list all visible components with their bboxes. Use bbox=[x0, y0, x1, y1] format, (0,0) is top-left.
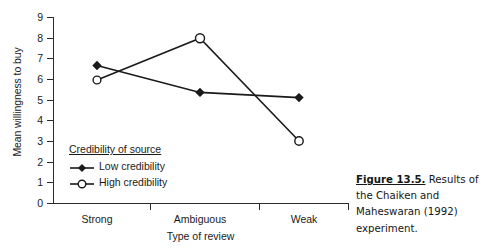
legend: Credibility of source Low credibility bbox=[69, 143, 199, 190]
legend-label-high-credibility: High credibility bbox=[99, 176, 167, 188]
data-point-low-ambiguous bbox=[195, 88, 204, 97]
x-tick-3 bbox=[348, 204, 349, 210]
y-axis-title: Mean willingness to buy bbox=[11, 47, 23, 157]
x-axis-line bbox=[53, 203, 349, 204]
y-tick-4 bbox=[47, 120, 53, 121]
legend-item-high-credibility: High credibility bbox=[69, 174, 199, 190]
y-tick-label-9: 9 bbox=[28, 12, 43, 22]
legend-item-low-credibility: Low credibility bbox=[69, 158, 199, 174]
x-tick-label-ambiguous: Ambiguous bbox=[150, 213, 250, 225]
data-point-high-ambiguous bbox=[196, 34, 205, 43]
legend-label-low-credibility: Low credibility bbox=[99, 160, 165, 172]
data-point-low-strong bbox=[92, 61, 101, 70]
y-tick-label-2: 2 bbox=[28, 157, 43, 167]
x-tick-label-weak: Weak bbox=[254, 213, 354, 225]
y-tick-label-7: 7 bbox=[28, 53, 43, 63]
x-axis-title: Type of review bbox=[53, 230, 348, 242]
series-line-low-credibility bbox=[97, 66, 299, 98]
legend-title: Credibility of source bbox=[69, 143, 199, 155]
y-tick-label-1: 1 bbox=[28, 177, 43, 187]
line-chart: Mean willingness to buy 9 8 7 6 5 4 3 2 … bbox=[0, 0, 348, 251]
y-tick-6 bbox=[47, 79, 53, 80]
y-tick-9 bbox=[47, 17, 53, 18]
y-tick-1 bbox=[47, 182, 53, 183]
y-tick-7 bbox=[47, 58, 53, 59]
y-tick-label-4: 4 bbox=[28, 115, 43, 125]
y-tick-2 bbox=[47, 162, 53, 163]
filled-diamond-icon bbox=[69, 160, 95, 172]
y-tick-label-8: 8 bbox=[28, 33, 43, 43]
open-circle-icon bbox=[69, 176, 95, 188]
figure-caption-label: Figure 13.5. bbox=[356, 174, 425, 185]
figure-caption: Figure 13.5. Results of the Chaiken and … bbox=[356, 172, 487, 237]
data-point-high-strong bbox=[93, 76, 101, 84]
y-tick-5 bbox=[47, 100, 53, 101]
y-tick-3 bbox=[47, 141, 53, 142]
y-tick-0 bbox=[47, 203, 53, 204]
x-tick-label-strong: Strong bbox=[47, 213, 147, 225]
y-axis-line bbox=[53, 17, 54, 204]
y-tick-label-5: 5 bbox=[28, 95, 43, 105]
series-line-high-credibility bbox=[97, 38, 299, 141]
y-tick-label-6: 6 bbox=[28, 74, 43, 84]
data-point-low-weak bbox=[294, 93, 303, 102]
x-tick-1 bbox=[150, 204, 151, 210]
data-point-high-weak bbox=[295, 137, 303, 145]
figure: Mean willingness to buy 9 8 7 6 5 4 3 2 … bbox=[0, 0, 487, 251]
x-tick-2 bbox=[259, 204, 260, 210]
y-tick-8 bbox=[47, 38, 53, 39]
y-tick-label-3: 3 bbox=[28, 136, 43, 146]
y-tick-label-0: 0 bbox=[28, 198, 43, 208]
